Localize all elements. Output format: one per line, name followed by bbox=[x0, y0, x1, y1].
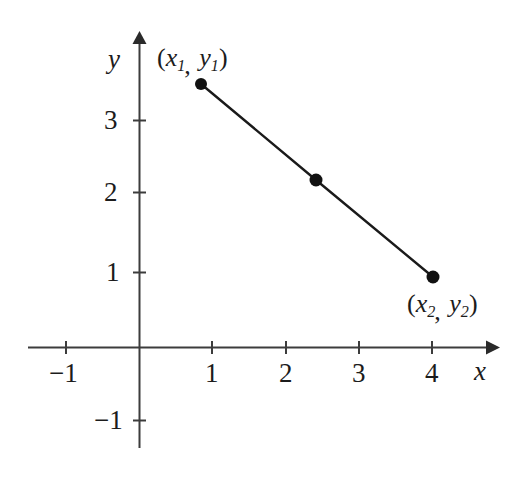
y-axis-label: y bbox=[108, 46, 120, 73]
data-point-marker-3 bbox=[427, 271, 440, 284]
point-2-label: (x2, y2) bbox=[407, 291, 478, 317]
x-axis-arrowhead-icon bbox=[486, 341, 500, 355]
point-1-var-x: x bbox=[166, 43, 178, 72]
x-tick-label-2: 2 bbox=[279, 360, 293, 387]
x-tick-label-neg1: −1 bbox=[49, 360, 78, 387]
y-axis-arrowhead-icon bbox=[133, 31, 147, 44]
point-2-sub-y: 2 bbox=[461, 303, 469, 320]
data-point-marker-2 bbox=[310, 174, 323, 187]
y-tick-label-2: 2 bbox=[104, 179, 118, 206]
point-2-close-paren: ) bbox=[469, 289, 478, 318]
x-axis-label: x bbox=[474, 358, 486, 385]
x-tick-label-3: 3 bbox=[352, 360, 366, 387]
x-tick-label-4: 4 bbox=[425, 360, 439, 387]
x-tick-label-1: 1 bbox=[205, 360, 219, 387]
point-1-close-paren: ) bbox=[219, 43, 228, 72]
data-point-marker-1 bbox=[195, 78, 207, 90]
plot-canvas bbox=[0, 0, 528, 481]
point-2-open-paren: ( bbox=[407, 289, 416, 318]
y-tick-label-1: 1 bbox=[106, 259, 120, 286]
point-1-label: (x1, y1) bbox=[157, 45, 228, 71]
point-2-var-x: x bbox=[416, 289, 428, 318]
y-tick-label-neg1: −1 bbox=[94, 407, 123, 434]
point-1-sub-y: 1 bbox=[211, 57, 219, 74]
point-2-comma: , bbox=[434, 297, 441, 326]
coordinate-plane-figure: y x 3 2 1 −1 −1 1 2 3 4 (x1, y1) (x2, y2… bbox=[0, 0, 528, 481]
point-1-comma: , bbox=[184, 51, 191, 80]
point-2-var-y: y bbox=[449, 289, 461, 318]
point-1-var-y: y bbox=[199, 43, 211, 72]
point-1-open-paren: ( bbox=[157, 43, 166, 72]
y-tick-label-3: 3 bbox=[104, 107, 118, 134]
